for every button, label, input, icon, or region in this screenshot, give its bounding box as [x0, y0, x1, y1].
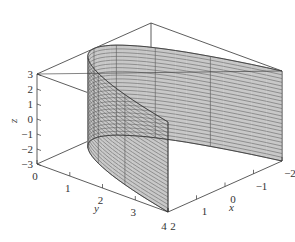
z-tick-label: 1 — [28, 98, 34, 110]
x-tick-label: 1 — [202, 205, 208, 217]
x-tick-label: 2 — [170, 220, 176, 232]
y-tick-label: 4 — [161, 220, 167, 232]
y-tick-label: 0 — [32, 170, 38, 182]
y-tick-label: 3 — [131, 206, 137, 218]
y-axis-label: y — [93, 202, 99, 214]
x-tick-label: −1 — [256, 180, 268, 192]
z-axis: 3210−1−2−3 — [21, 68, 41, 170]
y-tick-label: 1 — [65, 182, 71, 194]
z-axis-label: z — [7, 118, 19, 124]
z-tick-label: 0 — [28, 113, 34, 125]
z-tick-label: −3 — [21, 158, 33, 170]
z-tick-label: 3 — [28, 68, 34, 80]
x-axis: 210−1−2 — [168, 157, 295, 232]
x-tick-label: −2 — [284, 167, 295, 179]
parabolic-cylinder-surface — [88, 45, 282, 212]
z-tick-label: 2 — [28, 83, 34, 95]
x-axis-label: x — [228, 201, 234, 213]
z-tick-label: −1 — [21, 128, 33, 140]
surface-plot: 3210−1−2−3 01234 210−1−2 z y x — [0, 0, 295, 242]
z-tick-label: −2 — [21, 143, 33, 155]
